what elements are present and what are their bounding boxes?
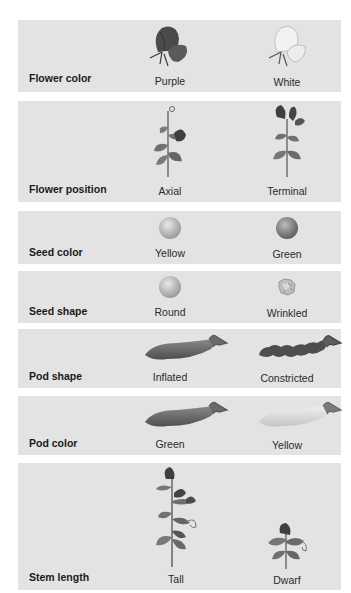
axial-flower-plant-icon	[150, 105, 190, 177]
trait-row-seed-shape: Seed shape Round Wrinkled	[18, 271, 341, 323]
recessive-label: Terminal	[267, 185, 307, 197]
dominant-label: Axial	[159, 185, 182, 197]
trait-label: Pod color	[29, 437, 77, 449]
trait-label: Pod shape	[29, 370, 82, 382]
trait-row-pod-color: Pod color Green Yellow	[18, 396, 341, 455]
trait-label: Flower color	[29, 72, 91, 84]
trait-row-flower-color: Flower color Purple White	[18, 20, 341, 92]
trait-row-seed-color: Seed color Yellow Green	[18, 211, 341, 264]
purple-flower-icon	[148, 22, 192, 68]
green-pod-icon	[143, 400, 229, 430]
recessive-label: Yellow	[272, 439, 302, 451]
tall-plant-icon	[150, 467, 202, 567]
trait-label: Flower position	[29, 183, 107, 195]
trait-label: Seed shape	[29, 305, 87, 317]
inflated-pod-icon	[143, 333, 229, 363]
recessive-label: Dwarf	[273, 574, 300, 586]
terminal-flower-plant-icon	[267, 105, 307, 177]
trait-row-pod-shape: Pod shape Inflated Constricted	[18, 329, 341, 388]
trait-row-flower-position: Flower position Axial Terminal	[18, 101, 341, 202]
green-seed-icon	[274, 215, 300, 241]
round-seed-icon	[157, 274, 183, 300]
trait-row-stem-length: Stem length Tall Dwarf	[18, 463, 341, 590]
trait-label: Seed color	[29, 246, 83, 258]
trait-label: Stem length	[29, 571, 89, 583]
dominant-label: Yellow	[155, 247, 185, 259]
yellow-pod-icon	[257, 400, 343, 430]
dwarf-plant-icon	[264, 521, 310, 569]
recessive-label: Wrinkled	[267, 307, 308, 319]
yellow-seed-icon	[157, 215, 183, 241]
dominant-label: Green	[155, 438, 184, 450]
dominant-label: Inflated	[153, 371, 187, 383]
dominant-label: Tall	[168, 573, 184, 585]
wrinkled-seed-icon	[276, 276, 298, 298]
dominant-label: Round	[155, 306, 186, 318]
recessive-label: Constricted	[260, 372, 313, 384]
recessive-label: White	[274, 76, 301, 88]
white-flower-icon	[265, 22, 309, 68]
recessive-label: Green	[272, 248, 301, 260]
constricted-pod-icon	[257, 333, 343, 363]
dominant-label: Purple	[155, 75, 185, 87]
